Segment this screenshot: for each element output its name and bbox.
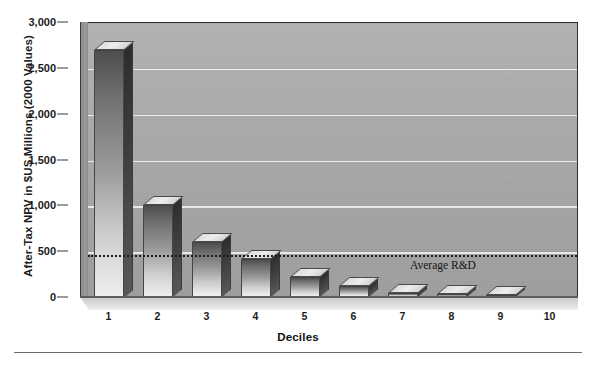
x-axis-tick-label: 2	[155, 310, 161, 322]
bar-side-face	[271, 252, 280, 297]
x-axis-tick-label: 10	[544, 310, 556, 322]
bar	[192, 242, 222, 297]
bar-front-face	[94, 50, 124, 298]
bar-front-face	[192, 242, 222, 297]
bar	[241, 259, 271, 297]
x-axis-tick-label: 9	[498, 310, 504, 322]
gridline	[88, 161, 577, 163]
y-axis-tick-label: 2,500	[28, 62, 56, 74]
chart-figure: After-Tax NPV in $US Millions (2000 Valu…	[0, 0, 596, 365]
bar-front-face	[241, 259, 271, 297]
x-axis-title: Deciles	[0, 331, 596, 343]
y-axis-tick-label: 1,000	[28, 199, 56, 211]
bar	[290, 277, 320, 297]
x-axis-tick-label: 7	[400, 310, 406, 322]
plot-area: Average R&D	[88, 22, 578, 297]
y-axis-tick-mark	[57, 205, 68, 206]
gridline	[88, 115, 577, 117]
gridline	[88, 69, 577, 71]
x-axis-tick-label: 5	[302, 310, 308, 322]
y-axis-tick-mark	[57, 297, 68, 298]
x-axis-tick-label: 3	[204, 310, 210, 322]
x-axis-tick-label: 1	[106, 310, 112, 322]
x-axis-tick-group: 12345678910	[88, 310, 578, 328]
axis-floor	[80, 297, 578, 310]
average-rd-label: Average R&D	[410, 259, 476, 271]
x-axis-tick-label: 6	[351, 310, 357, 322]
y-axis-tick-mark	[57, 113, 68, 114]
y-axis-tick-mark	[57, 159, 68, 160]
y-axis-tick-mark	[57, 67, 68, 68]
bar-front-face	[143, 205, 173, 297]
x-axis-tick-label: 8	[449, 310, 455, 322]
bar-side-face	[222, 234, 231, 297]
y-axis-tick-mark	[57, 22, 68, 23]
bar-side-face	[173, 198, 182, 297]
y-axis-tick-label: 2,000	[28, 108, 56, 120]
average-rd-line	[88, 255, 577, 257]
y-axis-tick-label: 3,000	[28, 16, 56, 28]
x-axis-tick-label: 4	[253, 310, 259, 322]
bar	[94, 50, 124, 298]
y-axis-tick-label: 1,500	[28, 154, 56, 166]
y-axis-tick-label: 0	[50, 291, 56, 303]
bar-side-face	[124, 42, 133, 297]
bar	[143, 205, 173, 297]
y-axis-tick-label: 500	[38, 245, 56, 257]
y-axis-tick-group: 05001,0001,5002,0002,5003,000	[0, 0, 70, 365]
y-axis-tick-mark	[57, 251, 68, 252]
bar-front-face	[290, 277, 320, 297]
footer-rule	[14, 352, 582, 353]
axis-floor-edge	[80, 296, 578, 298]
